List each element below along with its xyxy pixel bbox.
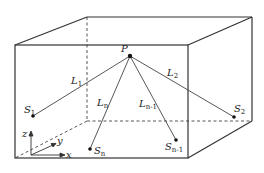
label-sn: Sn (94, 145, 106, 158)
label-sn-1: Sn-1 (165, 141, 183, 154)
label-p: P (120, 43, 128, 54)
label-s1: S1 (24, 104, 35, 117)
point-sn-1 (174, 138, 178, 142)
axis-y-label: y (56, 135, 63, 146)
axis-z-label: z (21, 128, 28, 139)
box-edges (15, 17, 252, 158)
point-sn (88, 147, 92, 151)
point-p (128, 54, 132, 58)
diagram-canvas: P S1 S2 Sn Sn-1 L1 L2 Ln Ln-1 z y x (0, 0, 264, 173)
box-diagram: P S1 S2 Sn Sn-1 L1 L2 Ln Ln-1 z y x (0, 0, 264, 173)
label-l1: L1 (70, 75, 82, 88)
axis-x-label: x (66, 149, 72, 160)
point-s2 (232, 115, 236, 119)
source-lines (33, 56, 234, 149)
label-s2: S2 (234, 103, 245, 116)
label-ln: Ln (96, 97, 109, 110)
hidden-edges (15, 17, 252, 158)
